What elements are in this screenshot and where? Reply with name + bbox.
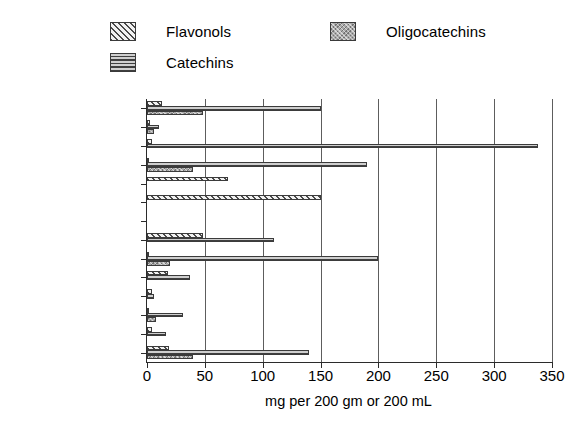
- chart-figure: Flavonols Catechins Oligocatechins 05010…: [0, 0, 579, 442]
- legend-item-catechins: Catechins: [110, 53, 234, 72]
- bar-oligocatechins-tea-black: [147, 167, 193, 172]
- legend-swatch-oligocatechins: [330, 22, 356, 41]
- bar-catechins-peach: [147, 256, 378, 261]
- bar-oligocatechins-peach: [147, 261, 170, 266]
- bar-group: [147, 324, 552, 343]
- gridline: [552, 99, 553, 362]
- x-axis-tick-label: 150: [291, 367, 351, 384]
- bar-group: [147, 155, 552, 174]
- x-axis-tick-label: 100: [233, 367, 293, 384]
- x-axis-tick-label: 0: [117, 367, 177, 384]
- bar-group: [147, 231, 552, 250]
- bar-group: [147, 212, 552, 231]
- bar-group: [147, 193, 552, 212]
- bar-group: [147, 268, 552, 287]
- legend-label-flavonols: Flavonols: [166, 23, 231, 40]
- bar-group: [147, 137, 552, 156]
- x-axis-tick-label: 200: [348, 367, 408, 384]
- bar-group: [147, 287, 552, 306]
- bar-catechins-plum: [147, 294, 154, 299]
- bar-oligocatechins-apple: [147, 355, 193, 360]
- bar-flavonols-onion: [147, 177, 228, 182]
- bar-group: [147, 174, 552, 193]
- x-axis-title: mg per 200 gm or 200 mL: [146, 393, 551, 409]
- x-axis-tick-label: 250: [406, 367, 466, 384]
- bar-oligocatechins-wine-red: [147, 111, 203, 116]
- chart-legend: Flavonols Catechins Oligocatechins: [0, 22, 579, 90]
- bar-oligocatechins-wine-white: [147, 129, 154, 134]
- bar-oligocatechins-cherry-sweet: [147, 317, 156, 322]
- legend-item-flavonols: Flavonols: [110, 22, 231, 41]
- legend-item-oligocatechins: Oligocatechins: [330, 22, 486, 41]
- legend-swatch-flavonols: [110, 22, 136, 41]
- x-axis-tick-label: 350: [522, 367, 579, 384]
- bar-catechins-apricot: [147, 275, 190, 280]
- legend-swatch-catechins: [110, 53, 136, 72]
- plot-area: 050100150200250300350Wine, RedWine, Whit…: [146, 99, 552, 363]
- bar-group: [147, 249, 552, 268]
- bar-group: [147, 118, 552, 137]
- bar-group: [147, 306, 552, 325]
- bar-group: [147, 99, 552, 118]
- bar-catechins-strawberry: [147, 238, 274, 243]
- bar-catechins-pear: [147, 332, 166, 337]
- x-axis-tick-label: 300: [464, 367, 524, 384]
- x-axis-tick-label: 50: [175, 367, 235, 384]
- bar-catechins-tea-green: [147, 144, 538, 149]
- legend-label-catechins: Catechins: [166, 54, 234, 71]
- bar-group: [147, 343, 552, 362]
- bar-flavonols-orange: [147, 195, 321, 200]
- legend-label-oligocatechins: Oligocatechins: [386, 23, 486, 40]
